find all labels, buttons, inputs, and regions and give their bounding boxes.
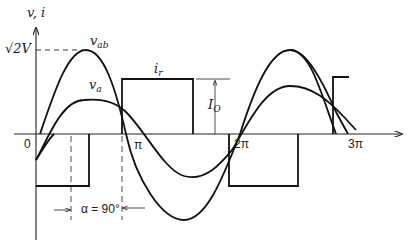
va-curve-start [36, 134, 54, 160]
va-label: va [89, 78, 102, 94]
x-tick-2pi: 2π [234, 138, 249, 150]
vab-label-sub: ab [97, 40, 108, 50]
x-tick-3pi: 3π [348, 138, 363, 150]
rectifier-waveform-diagram: v, i √2V vab va ir IO 0 π 2π 3π α = 90° [0, 0, 408, 246]
y-axis-label: v, i [27, 6, 45, 19]
peak-value-label: √2V [5, 42, 31, 55]
ir-label: ir [154, 62, 163, 78]
vab-label: vab [90, 34, 109, 50]
io-label-sub: O [213, 104, 220, 114]
va-curve [36, 86, 356, 177]
ir-label-sub: r [158, 68, 162, 78]
alpha-label: α = 90° [81, 203, 120, 215]
ir-square-wave [36, 77, 349, 186]
vab-curve [40, 50, 336, 220]
x-tick-0: 0 [24, 138, 31, 150]
io-label: IO [208, 98, 221, 114]
x-tick-pi: π [134, 139, 142, 151]
va-label-sub: a [96, 84, 101, 94]
waveform-plot [0, 0, 408, 246]
vab-curve-tail [290, 50, 348, 134]
